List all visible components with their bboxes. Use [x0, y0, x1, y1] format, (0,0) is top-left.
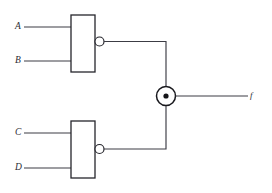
- input-label-c: C: [15, 128, 22, 138]
- input-label-a: A: [15, 22, 21, 32]
- xor-gate[interactable]: [157, 87, 176, 106]
- input-wires: [24, 27, 71, 168]
- nand-gate-2[interactable]: [71, 121, 104, 178]
- nand-gate-1[interactable]: [71, 15, 104, 72]
- wire-nand1-to-xor: [104, 42, 166, 87]
- nand-gate-2-body: [71, 121, 95, 178]
- wire-nand2-to-xor: [104, 106, 166, 150]
- input-label-b: B: [15, 56, 21, 66]
- nand-gate-1-inversion-bubble-icon: [95, 37, 104, 46]
- circuit-diagram-canvas: A B C D f: [0, 0, 272, 193]
- nand-gate-2-inversion-bubble-icon: [95, 145, 104, 154]
- nand-gate-1-body: [71, 15, 95, 72]
- output-label-f: f: [250, 91, 253, 100]
- circuit-schematic-svg: [0, 0, 272, 193]
- xor-gate-center-dot-icon: [163, 93, 168, 98]
- input-label-d: D: [15, 163, 22, 173]
